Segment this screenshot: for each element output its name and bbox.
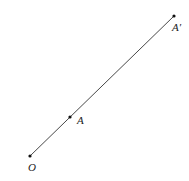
point-o [28, 154, 31, 157]
label-a-prime: A′ [171, 21, 182, 33]
label-a: A [76, 114, 84, 126]
label-o: O [28, 161, 36, 173]
diagram-canvas: O A A′ [0, 0, 189, 181]
point-a-prime [172, 14, 175, 17]
point-a [68, 115, 71, 118]
segment-o-a-prime [30, 16, 174, 156]
